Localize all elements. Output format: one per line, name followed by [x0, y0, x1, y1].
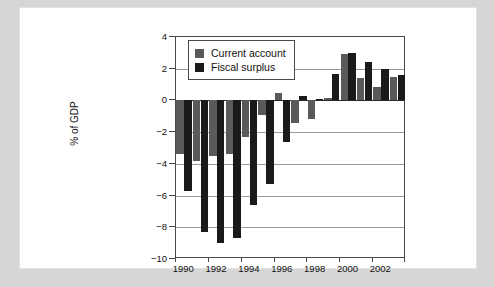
bar-current-account: [209, 100, 216, 156]
x-axis-tick-label: 2000: [337, 263, 358, 274]
bar-current-account: [390, 77, 397, 101]
y-axis-tick-label: 2: [162, 62, 167, 73]
bar-current-account: [341, 54, 348, 101]
y-axis-title: % of GDP: [69, 64, 80, 184]
chart-page: % of GDP 420−2−4−6−8−10 1990199219941996…: [0, 0, 494, 287]
y-axis-tick-label: 0: [162, 94, 167, 105]
bar-group: [357, 37, 373, 257]
bar-group: [373, 37, 389, 257]
bar-fiscal-surplus: [184, 100, 191, 190]
legend-swatch-fiscal-surplus: [195, 63, 204, 72]
y-axis-tick-labels: 420−2−4−6−8−10: [140, 36, 171, 258]
bar-fiscal-surplus: [233, 100, 240, 238]
legend-label-fiscal-surplus: Fiscal surplus: [211, 61, 275, 73]
y-axis-tick-label: −8: [156, 221, 167, 232]
bar-current-account: [193, 100, 200, 160]
bar-group: [340, 37, 356, 257]
y-axis-tick-label: −6: [156, 189, 167, 200]
y-axis-tick-label: −2: [156, 126, 167, 137]
bar-fiscal-surplus: [332, 74, 339, 100]
bar-current-account: [373, 87, 380, 100]
bar-current-account: [308, 100, 315, 119]
legend-item-current-account: Current account: [195, 47, 286, 59]
x-axis-tick-label: 1990: [173, 263, 194, 274]
bar-fiscal-surplus: [381, 69, 388, 101]
bar-fiscal-surplus: [365, 62, 372, 100]
bar-current-account: [242, 100, 249, 136]
bar-group: [307, 37, 323, 257]
chart-legend: Current account Fiscal surplus: [188, 40, 295, 80]
bar-fiscal-surplus: [299, 96, 306, 100]
bar-fiscal-surplus: [316, 99, 323, 101]
x-axis-tick-label: 1996: [271, 263, 292, 274]
y-axis-tick-label: 4: [162, 31, 167, 42]
bar-group: [324, 37, 340, 257]
bar-group: [390, 37, 406, 257]
bar-current-account: [176, 100, 183, 154]
bar-fiscal-surplus: [266, 100, 273, 184]
bar-fiscal-surplus: [348, 53, 355, 101]
bar-fiscal-surplus: [398, 75, 405, 100]
bar-current-account: [324, 98, 331, 100]
x-axis-tick-label: 1998: [304, 263, 325, 274]
bar-current-account: [226, 100, 233, 154]
bar-current-account: [275, 93, 282, 101]
bar-fiscal-surplus: [283, 100, 290, 141]
chart-card: % of GDP 420−2−4−6−8−10 1990199219941996…: [20, 8, 476, 268]
bar-current-account: [291, 100, 298, 122]
y-axis-tick-label: −4: [156, 157, 167, 168]
bar-fiscal-surplus: [217, 100, 224, 243]
y-axis-tick-label: −10: [151, 253, 167, 264]
x-axis-tick-label: 1992: [205, 263, 226, 274]
x-axis-tick-label: 2002: [370, 263, 391, 274]
x-axis-tick-labels: 1990199219941996199820002002: [175, 259, 405, 275]
bar-fiscal-surplus: [250, 100, 257, 205]
bar-fiscal-surplus: [201, 100, 208, 232]
legend-label-current-account: Current account: [211, 47, 286, 59]
legend-swatch-current-account: [195, 49, 204, 58]
legend-item-fiscal-surplus: Fiscal surplus: [195, 61, 286, 73]
x-axis-tick-label: 1994: [238, 263, 259, 274]
bar-current-account: [258, 100, 265, 114]
bar-current-account: [357, 78, 364, 100]
